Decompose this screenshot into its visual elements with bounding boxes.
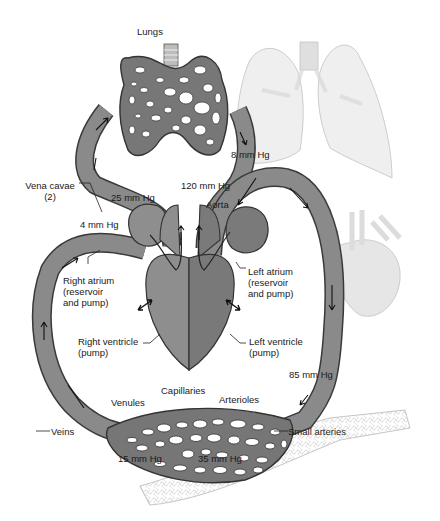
label-pressure-120: 120 mm Hg — [181, 180, 230, 191]
label-venules: Venules — [111, 397, 145, 408]
label-small-arteries: Small arteries — [288, 426, 346, 437]
diagram-canvas — [0, 0, 440, 521]
label-right-ventricle: Right ventricle (pump) — [78, 336, 138, 358]
label-pressure-85: 85 mm Hg — [289, 369, 333, 380]
label-left-atrium: Left atrium (reservoir and pump) — [248, 266, 293, 299]
label-lungs: Lungs — [137, 26, 163, 37]
label-arterioles: Arterioles — [219, 394, 259, 405]
label-pressure-25: 25 mm Hg — [111, 192, 155, 203]
lungs-network — [120, 44, 228, 155]
label-right-atrium: Right atrium (reservoir and pump) — [63, 275, 114, 308]
label-vena-cavae: Vena cavae (2) — [20, 180, 80, 202]
label-veins: Veins — [51, 426, 74, 437]
label-capillaries: Capillaries — [161, 385, 205, 396]
label-pressure-4: 4 mm Hg — [80, 219, 119, 230]
label-pressure-8: 8 mm Hg — [231, 149, 270, 160]
label-pressure-15: 15 mm Hg — [118, 453, 162, 464]
label-left-ventricle: Left ventricle (pump) — [249, 336, 303, 358]
circulatory-diagram: Lungs Vena cavae (2) 25 mm Hg 120 mm Hg … — [0, 0, 440, 521]
label-pressure-35: 35 mm Hg — [198, 453, 242, 464]
capillary-bed — [106, 408, 292, 482]
label-aorta: Aorta — [206, 199, 229, 210]
faded-heart-illustration — [335, 210, 400, 316]
